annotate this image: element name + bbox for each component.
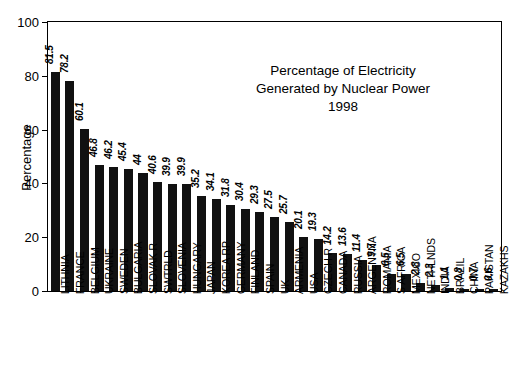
x-axis-label: ROMANIA [381,246,393,294]
bar-value-label: 29.3 [249,186,260,205]
x-axis-label: FRANCE [74,251,86,294]
x-axis-label: FINLAND [249,250,261,294]
x-axis-label: CANADA [337,251,349,294]
bar-value-label: 40.6 [147,155,158,174]
bar-value-label: 31.8 [220,179,231,198]
x-axis-label: CHINA [468,262,480,294]
bar-value-label: 13.6 [337,228,348,247]
bar-value-label: 45.4 [117,142,128,161]
y-axis-tick-labels: 020406080100 [3,0,39,382]
y-tick-label: 100 [5,16,39,29]
x-axis-label: KAZAKHS [498,246,510,294]
x-axis-label: INDIA [439,266,451,294]
y-tick-label: 20 [5,231,39,244]
x-axis-label: KOREA RP [220,241,232,294]
y-tick-label: 60 [5,123,39,136]
bar-value-label: 19.3 [307,212,318,231]
x-axis-label: ARGENTNA [366,236,378,294]
x-axis-label: UK [279,280,291,294]
x-axis-label: LITHNIA [59,254,71,294]
bar-value-label: 46.2 [103,140,114,159]
x-axis-label: NETHLNDS [425,238,437,294]
x-axis-label: S AFRICA [395,247,407,294]
x-axis-label: RUSSIA [352,256,364,295]
chart-title-line-1: Percentage of Electricity [228,62,458,80]
bar-value-label: 46.8 [88,138,99,157]
bar-value-label: 35.2 [190,170,201,189]
x-axis-label: SLOVAK R [147,243,159,294]
bar-slot[interactable]: 0.8 [460,22,469,291]
bar-value-label: 25.7 [278,195,289,214]
x-axis-label: USA [308,273,320,294]
x-axis-category-labels: LITHNIAFRANCEBELGIUMUKRAINESWEDENBULGARI… [48,294,501,382]
bar-value-label: 39.9 [176,157,187,176]
bar-value-label: 60.1 [74,103,85,122]
x-axis-label: SPAIN [264,264,276,294]
bar-value-label: 14.2 [322,226,333,245]
chart-title-line-2: Generated by Nuclear Power [228,80,458,98]
bar-value-label: 78.2 [59,54,70,73]
y-tick-label: 0 [5,285,39,298]
bar-value-label: 81.5 [44,45,55,64]
bar-value-label: 20.1 [293,210,304,229]
bar-value-label: 30.4 [234,183,245,202]
y-tick-label: 80 [5,69,39,82]
x-axis-label: ARMENIA [293,247,305,294]
x-axis-label: CZECH R [322,248,334,294]
x-axis-label: SWEDEN [118,249,130,295]
x-axis-label: JAPAN [205,261,217,294]
x-axis-label: SLOVENIA [176,242,188,294]
y-tick-label: 40 [5,177,39,190]
x-axis-label: BELGIUM [89,247,101,294]
bar-value-label: 11.4 [351,234,362,252]
x-axis-label: GERMANY [235,242,247,294]
bar-value-label: 27.5 [263,190,274,209]
x-axis-label: BULGARIA [132,242,144,294]
x-axis-label: HUNGARY [191,242,203,294]
x-axis-label: UKRAINE [103,248,115,294]
x-axis-label: MEXICO [410,253,422,294]
nuclear-power-bar-chart: Percentage 020406080100 81.578.260.146.8… [0,0,511,382]
bar-value-label: 34.1 [205,173,216,192]
x-axis-label: SWTRLD [162,250,174,294]
x-axis-label: PAKISTAN [483,244,495,294]
chart-title-line-3: 1998 [228,98,458,116]
x-axis-label: BRAZIL [454,258,466,294]
bar-value-label: 39.9 [161,157,172,176]
chart-title: Percentage of Electricity Generated by N… [228,62,458,115]
bar-value-label: 44 [132,154,143,165]
